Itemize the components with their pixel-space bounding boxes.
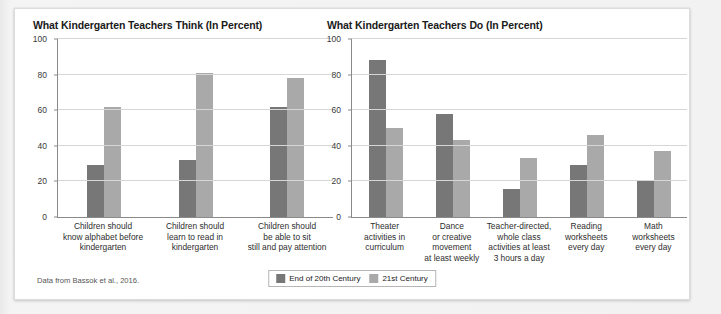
y-axis-tick-label: 80 — [332, 70, 341, 80]
y-axis-tick-label: 80 — [38, 70, 47, 80]
bar — [637, 180, 654, 217]
x-axis-label: Danceor creativemovementat least weekly — [418, 221, 485, 263]
bar-group — [241, 39, 333, 217]
bar-group — [352, 39, 419, 217]
y-axis-tick-label: 100 — [327, 34, 341, 44]
plot-area-do: 020406080100 — [351, 39, 687, 218]
y-axis-tick-label: 0 — [336, 212, 341, 222]
legend-swatch — [369, 274, 378, 283]
gridline — [58, 145, 333, 146]
figure-card: What Kindergarten Teachers Think (In Per… — [14, 8, 690, 300]
gridline — [58, 38, 333, 39]
bar-group — [486, 39, 553, 217]
y-axis-tick-label: 60 — [38, 105, 47, 115]
plot-wrap-do: 020406080100 Theateractivities incurricu… — [327, 39, 687, 263]
x-axis-label: Teacher-directed,whole classactivities a… — [485, 221, 552, 263]
bar — [520, 158, 537, 217]
chart-panel-do: What Kindergarten Teachers Do (In Percen… — [327, 19, 687, 263]
y-axis-tick-label: 60 — [332, 105, 341, 115]
y-axis-tick-label: 40 — [38, 141, 47, 151]
x-axis-label: Theateractivities incurriculum — [351, 221, 418, 263]
y-axis-tick-mark — [54, 110, 58, 111]
bar — [369, 60, 386, 217]
gridline — [58, 74, 333, 75]
y-axis-tick-mark — [348, 217, 352, 218]
gridline — [352, 180, 687, 181]
bar — [270, 107, 287, 217]
bar — [104, 107, 121, 217]
x-axis-label: Readingworksheetsevery day — [553, 221, 620, 263]
bar-groups-do — [352, 39, 687, 217]
gridline — [352, 109, 687, 110]
chart-title-think: What Kindergarten Teachers Think (In Per… — [33, 19, 333, 31]
y-axis-tick-label: 20 — [332, 176, 341, 186]
bar — [570, 165, 587, 217]
legend-label: End of 20th Century — [289, 274, 360, 283]
y-axis-tick-label: 40 — [332, 141, 341, 151]
plot-area-think: 020406080100 — [57, 39, 333, 218]
y-axis-tick-mark — [348, 181, 352, 182]
bar — [587, 135, 604, 217]
bar-group — [620, 39, 687, 217]
y-axis-tick-mark — [348, 74, 352, 75]
x-axis-label: Children shouldlearn to read inkindergar… — [149, 221, 241, 253]
y-axis-tick-mark — [348, 145, 352, 146]
bar — [436, 114, 453, 217]
bar — [386, 128, 403, 217]
y-axis-tick-label: 20 — [38, 176, 47, 186]
bar — [87, 165, 104, 217]
source-note: Data from Bassok et al., 2016. — [37, 276, 139, 285]
y-axis-tick-mark — [54, 145, 58, 146]
y-axis-tick-mark — [348, 110, 352, 111]
gridline — [352, 145, 687, 146]
bar — [453, 140, 470, 217]
y-axis-tick-mark — [54, 217, 58, 218]
legend-item: 21st Century — [369, 274, 427, 283]
y-axis-tick-mark — [348, 39, 352, 40]
y-axis-tick-mark — [54, 181, 58, 182]
chart-title-do: What Kindergarten Teachers Do (In Percen… — [327, 19, 687, 31]
figure-root: What Kindergarten Teachers Think (In Per… — [0, 0, 721, 314]
x-axis-labels-do: Theateractivities incurriculumDanceor cr… — [351, 221, 687, 263]
bar — [654, 151, 671, 217]
bar-groups-think — [58, 39, 333, 217]
legend-item: End of 20th Century — [276, 274, 360, 283]
bar-group — [150, 39, 242, 217]
bar-group — [553, 39, 620, 217]
x-axis-label: Children shouldknow alphabet beforekinde… — [57, 221, 149, 253]
chart-panel-think: What Kindergarten Teachers Think (In Per… — [33, 19, 333, 253]
x-axis-label: Mathworksheetsevery day — [620, 221, 687, 263]
gridline — [58, 109, 333, 110]
x-axis-labels-think: Children shouldknow alphabet beforekinde… — [57, 221, 333, 253]
bar-group — [58, 39, 150, 217]
y-axis-tick-mark — [54, 74, 58, 75]
y-axis-tick-label: 0 — [42, 212, 47, 222]
gridline — [352, 74, 687, 75]
y-axis-tick-label: 100 — [33, 34, 47, 44]
gridline — [58, 180, 333, 181]
plot-wrap-think: 020406080100 Children shouldknow alphabe… — [33, 39, 333, 253]
bar — [287, 78, 304, 217]
chart-legend: End of 20th Century21st Century — [268, 270, 436, 287]
bar-group — [419, 39, 486, 217]
charts-container: What Kindergarten Teachers Think (In Per… — [15, 9, 689, 299]
bar — [179, 160, 196, 217]
legend-swatch — [276, 274, 285, 283]
legend-label: 21st Century — [382, 274, 427, 283]
x-axis-label: Children shouldbe able to sitstill and p… — [241, 221, 333, 253]
bar — [503, 189, 520, 217]
y-axis-tick-mark — [54, 39, 58, 40]
gridline — [352, 38, 687, 39]
